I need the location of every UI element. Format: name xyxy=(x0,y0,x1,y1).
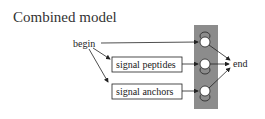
begin-label: begin xyxy=(73,38,95,49)
begin-to-peptides-arrow xyxy=(93,48,110,59)
begin-to-state1-arrow xyxy=(101,42,198,43)
combined-model-diagram: begin signal peptides signal anchors end xyxy=(0,0,265,119)
end-label: end xyxy=(233,58,247,69)
signal-anchors-label: signal anchors xyxy=(116,86,174,97)
begin-to-anchors-arrow xyxy=(89,49,108,82)
signal-peptides-label: signal peptides xyxy=(116,59,176,70)
